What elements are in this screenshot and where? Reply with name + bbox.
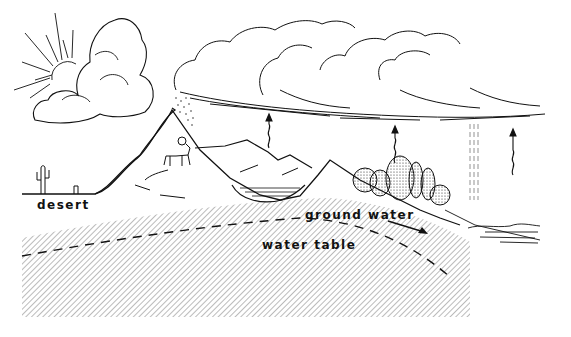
cumulus-cloud	[33, 19, 153, 123]
cactus	[37, 166, 78, 194]
back-mountains	[195, 140, 312, 168]
label-desert: desert	[37, 198, 90, 212]
forest	[353, 156, 450, 205]
water-cycle-diagram	[0, 0, 571, 337]
label-ground-water: ground water	[305, 208, 415, 222]
bighorn-sheep	[164, 137, 190, 166]
stratus-clouds	[174, 21, 545, 120]
rain	[470, 124, 478, 200]
label-water-table: water table	[262, 238, 356, 252]
sun	[14, 13, 76, 98]
snow	[175, 97, 194, 126]
lake	[232, 185, 305, 202]
